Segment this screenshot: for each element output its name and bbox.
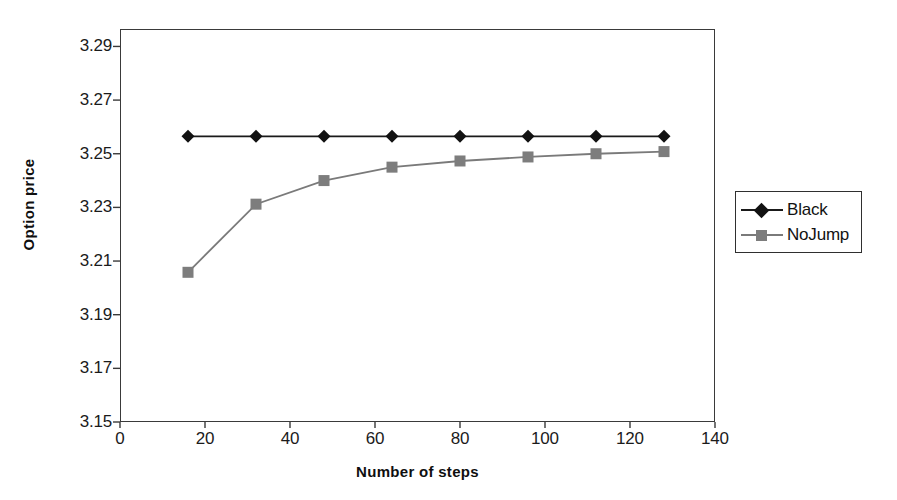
- square-marker-icon: [756, 230, 767, 241]
- x-axis-tick-label: 0: [90, 430, 150, 448]
- y-axis-tick-label: 3.21: [44, 252, 112, 269]
- x-axis-tick-label: 80: [430, 430, 490, 448]
- y-axis-tick-label: 3.29: [44, 37, 112, 54]
- data-point-diamond: [182, 130, 195, 143]
- y-axis-tick-label: 3.25: [44, 145, 112, 162]
- data-point-square: [183, 267, 194, 278]
- legend-label-nojump: NoJump: [783, 226, 849, 243]
- y-axis-tick-label: 3.23: [44, 198, 112, 215]
- chart-legend: Black NoJump: [735, 191, 862, 253]
- x-axis-title: Number of steps: [120, 463, 715, 480]
- x-axis-tick-label: 40: [260, 430, 320, 448]
- legend-swatch-black: [741, 201, 783, 219]
- x-axis-tick-label: 60: [345, 430, 405, 448]
- series-line-nojump: [188, 152, 664, 273]
- y-axis-title: Option price: [20, 115, 37, 295]
- data-point-square: [659, 146, 670, 157]
- data-point-diamond: [318, 130, 331, 143]
- legend-label-black: Black: [783, 201, 828, 218]
- y-axis-tick-label: 3.27: [44, 91, 112, 108]
- y-axis-ticks: [113, 46, 120, 422]
- legend-item-black[interactable]: Black: [736, 197, 861, 222]
- x-axis-tick-label: 100: [515, 430, 575, 448]
- x-axis-ticks: [120, 422, 715, 428]
- data-point-square: [387, 162, 398, 173]
- chart-figure: 3.153.173.193.213.233.253.273.29 0204060…: [0, 0, 897, 500]
- legend-swatch-nojump: [741, 226, 783, 244]
- data-point-square: [523, 151, 534, 162]
- data-point-diamond: [522, 130, 535, 143]
- y-axis-tick-labels: 3.153.173.193.213.233.253.273.29: [42, 0, 112, 500]
- y-axis-tick-label: 3.19: [44, 306, 112, 323]
- data-point-diamond: [454, 130, 467, 143]
- data-point-square: [455, 155, 466, 166]
- data-point-square: [319, 175, 330, 186]
- data-point-square: [251, 199, 262, 210]
- data-point-diamond: [590, 130, 603, 143]
- data-series-group: [182, 130, 671, 278]
- diamond-marker-icon: [754, 202, 770, 218]
- y-axis-tick-label: 3.15: [44, 413, 112, 430]
- x-axis-tick-label: 140: [685, 430, 745, 448]
- data-point-diamond: [658, 130, 671, 143]
- legend-item-nojump[interactable]: NoJump: [736, 222, 861, 247]
- x-axis-tick-label: 120: [600, 430, 660, 448]
- data-point-diamond: [386, 130, 399, 143]
- data-point-diamond: [250, 130, 263, 143]
- data-point-square: [591, 148, 602, 159]
- y-axis-tick-label: 3.17: [44, 359, 112, 376]
- x-axis-tick-label: 20: [175, 430, 235, 448]
